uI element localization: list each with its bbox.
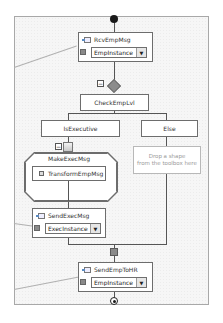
send-message-icon bbox=[84, 267, 91, 273]
send-message-icon bbox=[38, 213, 45, 219]
branch-merge-line bbox=[68, 244, 167, 245]
flow-line bbox=[166, 173, 167, 245]
flow-line bbox=[68, 113, 69, 120]
branch-merge-node bbox=[110, 248, 118, 256]
send-emp-shape-name: SendEmpToHR bbox=[94, 266, 138, 273]
send-emp-message-select[interactable]: EmpInstance ▼ bbox=[91, 277, 147, 288]
drop-shape-placeholder[interactable]: Drop a shape from the toolbox here bbox=[133, 146, 201, 174]
transform-shape[interactable]: TransformEmpMsg bbox=[32, 166, 106, 181]
branch-else-label: Else bbox=[163, 125, 175, 132]
receive-message-icon bbox=[84, 37, 91, 43]
construct-message-name: MakeExecMsg bbox=[44, 155, 94, 162]
send-exec-shape[interactable]: SendExecMsg ExecInstance ▼ bbox=[32, 208, 106, 238]
transform-icon bbox=[39, 171, 44, 176]
flow-line bbox=[68, 181, 69, 201]
chevron-down-icon[interactable]: ▼ bbox=[136, 48, 146, 57]
receive-message-select[interactable]: EmpInstance ▼ bbox=[91, 47, 147, 58]
placeholder-line-1: Drop a shape bbox=[149, 153, 186, 160]
flow-line bbox=[166, 113, 167, 120]
send-emp-message-value: EmpInstance bbox=[92, 279, 136, 286]
end-node bbox=[110, 297, 118, 305]
receive-port-connector[interactable] bbox=[80, 49, 86, 55]
transform-shape-name: TransformEmpMsg bbox=[48, 170, 103, 177]
send-emp-shape[interactable]: SendEmpToHR EmpInstance ▼ bbox=[78, 262, 153, 292]
receive-message-value: EmpInstance bbox=[92, 49, 136, 56]
placeholder-line-2: from the toolbox here bbox=[137, 160, 197, 167]
branch-split-line bbox=[68, 113, 167, 114]
construct-collapse-toggle[interactable]: − bbox=[55, 143, 62, 150]
branch-isexecutive[interactable]: IsExecutive bbox=[41, 120, 120, 137]
decide-shape-name: CheckEmpLvl bbox=[94, 99, 134, 106]
construct-message-icon bbox=[63, 142, 73, 152]
branch-isexecutive-label: IsExecutive bbox=[63, 125, 97, 132]
decide-shape[interactable]: CheckEmpLvl bbox=[80, 94, 149, 111]
decide-collapse-toggle[interactable]: − bbox=[97, 80, 104, 87]
start-node bbox=[110, 15, 118, 23]
send-exec-shape-name: SendExecMsg bbox=[48, 212, 89, 219]
chevron-down-icon[interactable]: ▼ bbox=[90, 224, 100, 233]
receive-shape[interactable]: RcvEmpMsg EmpInstance ▼ bbox=[78, 32, 153, 62]
branch-else[interactable]: Else bbox=[141, 120, 198, 137]
chevron-down-icon[interactable]: ▼ bbox=[136, 278, 146, 287]
send-emp-port-connector[interactable] bbox=[80, 279, 86, 285]
send-exec-port-connector[interactable] bbox=[34, 225, 40, 231]
flow-line bbox=[166, 136, 167, 146]
receive-shape-name: RcvEmpMsg bbox=[94, 36, 131, 43]
send-exec-message-select[interactable]: ExecInstance ▼ bbox=[45, 223, 101, 234]
send-exec-message-value: ExecInstance bbox=[46, 225, 90, 232]
